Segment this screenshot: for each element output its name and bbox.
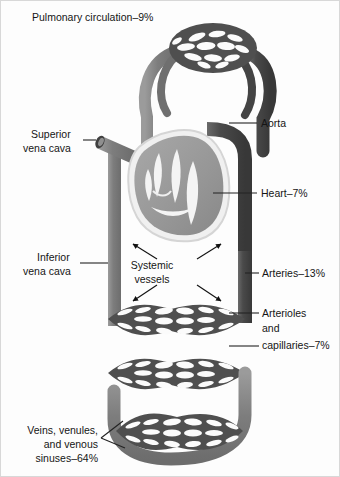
figure-panel: Pulmonary circulation–9% Superior vena c… (0, 0, 340, 477)
superior-vena-cava (93, 134, 133, 157)
label-heart: Heart–7% (261, 187, 308, 199)
label-veins-line3: sinuses–64% (36, 452, 98, 464)
capillary-bed-upper (108, 305, 245, 335)
circulatory-system-diagram: Pulmonary circulation–9% Superior vena c… (1, 1, 340, 477)
artery-trunk-right (238, 251, 252, 323)
label-veins-line1: Veins, venules, (27, 424, 98, 436)
label-superior-vena-cava-line2: vena cava (23, 142, 71, 154)
label-arteries: Arteries–13% (262, 267, 325, 279)
heart (128, 130, 229, 241)
label-pulmonary-circulation: Pulmonary circulation–9% (32, 11, 153, 23)
pulmonary-inner-loop-right (241, 59, 252, 115)
inferior-vena-cava (108, 151, 121, 326)
label-inferior-vena-cava-line1: Inferior (37, 251, 70, 263)
label-arterioles-line1: Arterioles (262, 307, 306, 319)
label-systemic-vessels-line2: vessels (134, 273, 169, 285)
label-inferior-vena-cava-line2: vena cava (23, 265, 71, 277)
label-superior-vena-cava-line1: Superior (31, 128, 71, 140)
label-veins-line2: and venous (44, 438, 98, 450)
pulmonary-capillary-bed (169, 23, 257, 73)
label-aorta: Aorta (261, 117, 286, 129)
label-arterioles-line2: and (262, 322, 280, 334)
label-systemic-vessels-line1: Systemic (131, 259, 174, 271)
capillary-bed-middle (108, 359, 245, 389)
label-arterioles-line3: capillaries–7% (262, 339, 330, 351)
